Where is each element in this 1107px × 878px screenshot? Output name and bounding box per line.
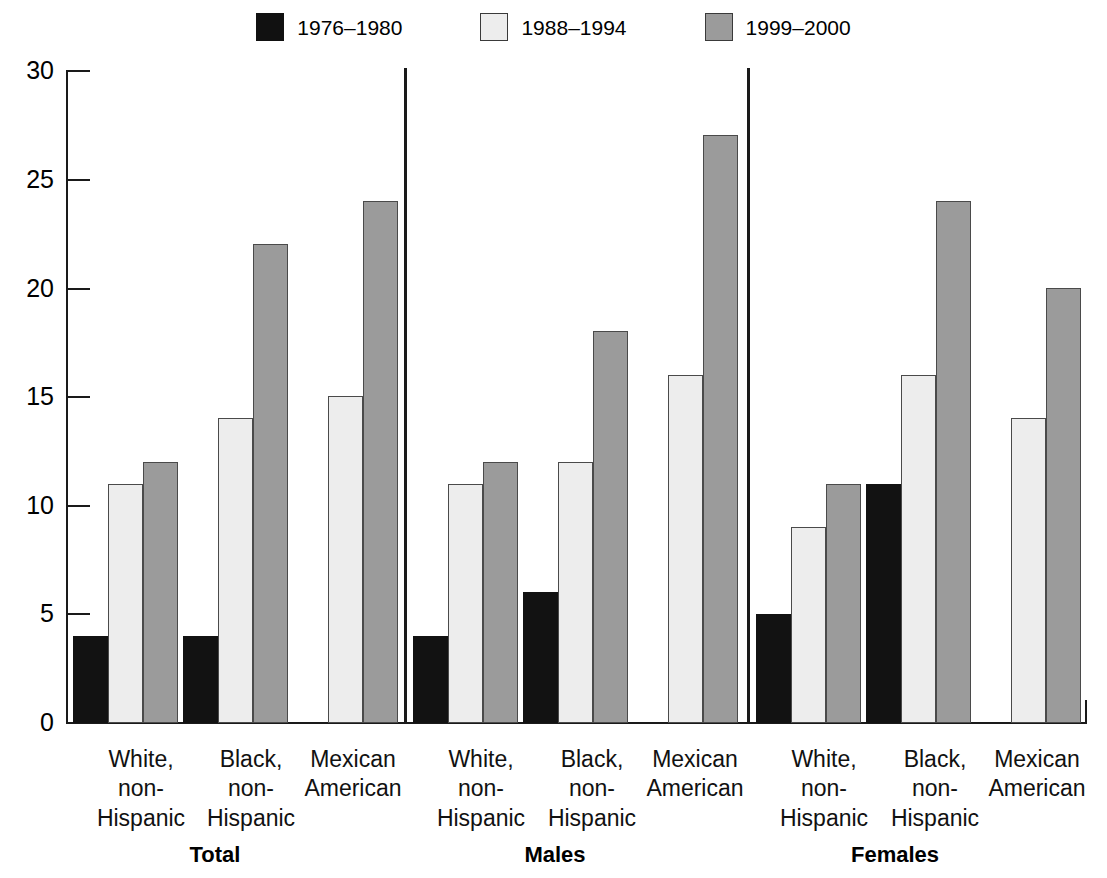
bar-total-black-non-hispanic-1988-1994 [218, 418, 253, 723]
bar-females-black-non-hispanic-1976-1980 [866, 484, 901, 723]
plot-area: 0 5 10 15 20 25 30 White, non- Hispanic … [0, 0, 1107, 878]
bar-females-black-non-hispanic-1988-1994 [901, 375, 936, 723]
bar-males-white-non-hispanic-1988-1994 [448, 484, 483, 723]
category-label-mexican-females: Mexican American [972, 745, 1102, 804]
bar-total-white-non-hispanic-1976-1980 [73, 636, 108, 723]
bar-females-white-non-hispanic-1976-1980 [756, 614, 791, 723]
group-label-males: Males [490, 842, 620, 868]
bar-total-black-non-hispanic-1976-1980 [183, 636, 218, 723]
bar-males-white-non-hispanic-1976-1980 [413, 636, 448, 723]
bar-chart: 1976–1980 1988–1994 1999–2000 0 5 10 15 … [0, 0, 1107, 878]
bar-females-black-non-hispanic-1999-2000 [936, 201, 971, 723]
bar-males-white-non-hispanic-1999-2000 [483, 462, 518, 723]
bar-total-mexican-american-1999-2000 [363, 201, 398, 723]
group-label-total: Total [150, 842, 280, 868]
bar-females-white-non-hispanic-1988-1994 [791, 527, 826, 723]
bar-males-mexican-american-1988-1994 [668, 375, 703, 723]
group-label-females: Females [830, 842, 960, 868]
bar-males-black-non-hispanic-1988-1994 [558, 462, 593, 723]
bar-females-white-non-hispanic-1999-2000 [826, 484, 861, 723]
bar-total-white-non-hispanic-1999-2000 [143, 462, 178, 723]
bar-males-black-non-hispanic-1976-1980 [523, 592, 558, 723]
bar-total-black-non-hispanic-1999-2000 [253, 244, 288, 723]
bar-total-mexican-american-1988-1994 [328, 396, 363, 723]
bar-males-mexican-american-1999-2000 [703, 135, 738, 723]
bar-total-white-non-hispanic-1988-1994 [108, 484, 143, 723]
bar-females-mexican-american-1988-1994 [1011, 418, 1046, 723]
bars-layer [0, 0, 1107, 723]
category-label-mexican-total: Mexican American [288, 745, 418, 804]
bar-males-black-non-hispanic-1999-2000 [593, 331, 628, 723]
bar-females-mexican-american-1999-2000 [1046, 288, 1081, 723]
category-label-mexican-males: Mexican American [630, 745, 760, 804]
